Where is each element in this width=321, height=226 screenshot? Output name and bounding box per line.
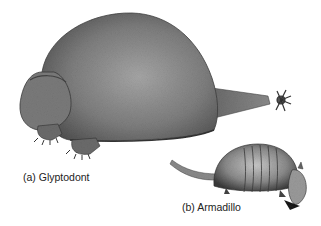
glyptodont-illustration	[20, 13, 291, 160]
tail-club-icon	[276, 90, 291, 111]
illustration-canvas	[0, 0, 321, 226]
caption-glyptodont: (a) Glyptodont	[23, 171, 90, 183]
caption-armadillo: (b) Armadillo	[182, 201, 241, 213]
figure: (a) Glyptodont (b) Armadillo	[0, 0, 321, 226]
